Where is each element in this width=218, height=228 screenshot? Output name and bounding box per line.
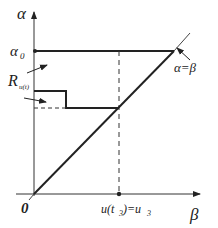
region-arrow-lower: [24, 98, 46, 102]
u3-label-sub2: 3: [146, 209, 151, 218]
u3-label-mid: )=u: [122, 202, 141, 216]
diagonal-label-arrow: [177, 48, 190, 60]
diagonal-label: α=β: [174, 60, 197, 75]
origin-label: 0: [21, 200, 29, 216]
x-axis-label: β: [189, 205, 199, 224]
y-axis-label: α: [17, 4, 27, 23]
u3-point: [117, 192, 121, 196]
region-subscript: u(t): [19, 83, 30, 91]
origin-tick: [29, 194, 34, 200]
alpha0-label: α: [10, 43, 19, 59]
region-label: R: [7, 72, 18, 89]
alpha0-subscript: 0: [20, 51, 25, 61]
alpha-equals-beta-line: [174, 33, 190, 51]
hysteresis-diagram: α β 0 α 0 R u(t) α=β u(t 3 )=u 3: [0, 0, 218, 228]
region-arrow-upper: [27, 65, 47, 73]
step-line: [34, 91, 119, 108]
alpha0-point: [33, 49, 37, 53]
boundary-diagonal: [34, 51, 174, 194]
u3-label-main: u(t: [101, 202, 115, 216]
